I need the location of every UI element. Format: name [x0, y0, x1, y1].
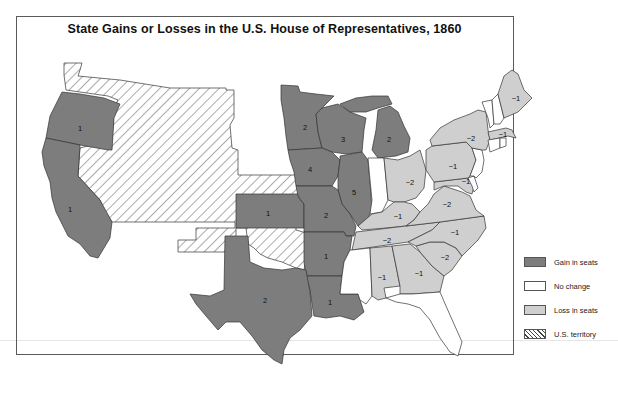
label-kentucky: −1 — [394, 212, 403, 221]
state-ohio — [384, 150, 426, 202]
label-georgia: −1 — [415, 269, 424, 278]
no-change-swatch-icon — [524, 281, 546, 291]
label-michigan: 2 — [387, 135, 391, 144]
label-kansas: 1 — [266, 209, 270, 218]
legend-label-territory: U.S. territory — [554, 330, 596, 339]
state-rhode-island — [500, 138, 506, 148]
label-massachusetts: −1 — [499, 130, 508, 139]
label-new-york: −2 — [467, 134, 476, 143]
gain-swatch-icon — [524, 257, 546, 267]
legend-item-territory: U.S. territory — [524, 328, 596, 340]
label-texas: 2 — [263, 296, 267, 305]
label-arkansas: 1 — [324, 252, 328, 261]
label-wisconsin: 3 — [341, 135, 345, 144]
label-illinois: 5 — [352, 188, 356, 197]
label-south-carolina: −2 — [441, 253, 450, 262]
state-michigan — [372, 106, 410, 158]
label-louisiana: 1 — [328, 298, 332, 307]
label-ohio: −2 — [406, 178, 415, 187]
label-north-carolina: −1 — [451, 228, 460, 237]
label-virginia: −2 — [443, 200, 452, 209]
legend-item-loss: Loss in seats — [524, 304, 598, 316]
label-oregon: 1 — [78, 124, 82, 133]
label-maine: −1 — [512, 94, 521, 103]
legend-label-loss: Loss in seats — [554, 306, 598, 315]
state-florida — [386, 292, 462, 356]
label-minnesota: 2 — [303, 123, 307, 132]
label-iowa: 4 — [308, 165, 312, 174]
legend-item-no-change: No change — [524, 280, 590, 292]
territory-hatch-swatch-icon — [524, 329, 546, 339]
state-connecticut — [488, 138, 500, 152]
state-iowa — [288, 148, 340, 186]
legend-item-gain: Gain in seats — [524, 256, 598, 268]
label-tennessee: −2 — [383, 236, 392, 245]
legend-label-no-change: No change — [554, 282, 590, 291]
label-california: 1 — [68, 205, 72, 214]
loss-swatch-icon — [524, 305, 546, 315]
label-maryland: −1 — [462, 177, 471, 186]
label-pennsylvania: −1 — [449, 162, 458, 171]
label-alabama: −1 — [378, 273, 387, 282]
label-missouri: 2 — [324, 211, 328, 220]
legend-label-gain: Gain in seats — [554, 258, 598, 267]
